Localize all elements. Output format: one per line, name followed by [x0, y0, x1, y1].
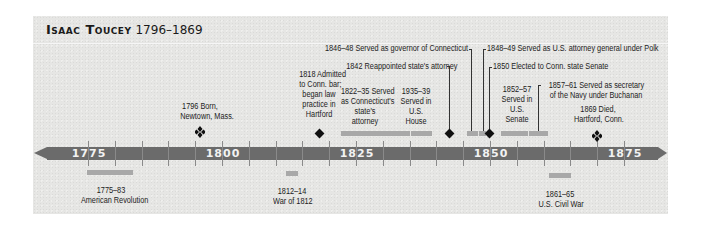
event-text: 1818 Admitted [299, 69, 339, 79]
event-text: 1775–83 [81, 185, 141, 195]
event-text: U.S. [500, 104, 534, 114]
event-text: state's [341, 106, 389, 116]
event-attorney-general-label: 1848–49 Served as U.S. attorney general … [487, 43, 664, 53]
axis-tick [276, 141, 277, 166]
event-text: 1869 Died, [574, 104, 622, 114]
leader-line [449, 66, 450, 130]
event-text: attorney [341, 116, 389, 126]
event-text: 1935–39 [401, 86, 432, 96]
axis-tick [115, 141, 116, 166]
axis-arrow-left-icon [34, 147, 47, 159]
event-house-label: 1935–39 Served in U.S. House [401, 86, 432, 126]
quad-diamond-icon [195, 126, 205, 138]
leader-line [471, 49, 472, 131]
event-text: began law [299, 89, 339, 99]
event-house-bar [411, 131, 432, 136]
event-text: to Conn. bar; [299, 79, 339, 89]
event-war-1812-bar [286, 171, 298, 176]
axis-label-1775: 1775 [72, 147, 107, 160]
event-died-label: 1869 Died, Hartford, Conn. [574, 104, 622, 124]
event-governor-bar [467, 131, 478, 136]
event-state-attorney-bar [341, 131, 410, 136]
event-text: American Revolution [81, 195, 141, 205]
event-text: Served in [500, 94, 534, 104]
event-text: of the Navy under Buchanan [549, 90, 644, 100]
axis-tick [302, 141, 303, 166]
axis-tick [436, 141, 437, 166]
axis-tick [544, 141, 545, 166]
axis-tick [249, 141, 250, 166]
event-war-1812-label: 1812–14 War of 1812 [273, 186, 311, 206]
event-text: Senate [500, 114, 534, 124]
event-text: 1796 Born, [180, 101, 220, 111]
page-title: Isaac Toucey1796–1869 [46, 22, 203, 37]
event-text: House [401, 116, 432, 126]
axis-tick [410, 141, 411, 166]
event-civil-war-label: 1861–65 U.S. Civil War [539, 189, 582, 209]
event-text: 1861–65 [539, 189, 582, 199]
event-civil-war-bar [549, 173, 571, 178]
event-navy-bar [529, 131, 548, 136]
event-text: 1822–35 Served [341, 86, 389, 96]
leader-line [538, 85, 539, 131]
event-text: Hartford, Conn. [574, 114, 622, 124]
event-bar-label: 1818 Admitted to Conn. bar; began law pr… [299, 69, 339, 119]
axis-tick [463, 141, 464, 166]
event-text: Served in [401, 96, 432, 106]
event-senate-label: 1852–57 Served in U.S. Senate [500, 84, 534, 124]
axis-tick [517, 141, 518, 166]
title-years: 1796–1869 [135, 23, 202, 37]
axis-tick [329, 141, 330, 166]
event-text: practice in [299, 99, 339, 109]
event-revolution-label: 1775–83 American Revolution [81, 185, 141, 205]
event-state-attorney-label: 1822–35 Served as Connecticut's state's … [341, 86, 389, 126]
axis-label-1825: 1825 [340, 147, 375, 160]
axis-tick [570, 141, 571, 166]
event-born-label: 1796 Born, Newtown, Mass. [180, 101, 220, 121]
axis-label-1850: 1850 [474, 147, 509, 160]
axis-label-1875: 1875 [608, 147, 643, 160]
axis-tick [195, 141, 196, 166]
axis-tick [597, 141, 598, 166]
event-reappointed-label: 1842 Reappointed state's attorney [346, 61, 446, 71]
event-text: Hartford [299, 109, 339, 119]
event-text: U.S. Civil War [539, 199, 582, 209]
event-senate-bar [501, 131, 528, 136]
event-text: War of 1812 [273, 196, 311, 206]
event-revolution-bar [87, 170, 133, 175]
event-state-senate-label: 1850 Elected to Conn. state Senate [493, 61, 613, 71]
leader-line [489, 67, 490, 130]
axis-tick [142, 141, 143, 166]
event-text: 1812–14 [273, 186, 311, 196]
quad-diamond-icon [592, 130, 602, 142]
event-navy-label: 1857–61 Served as secretary of the Navy … [549, 80, 644, 100]
leader-line [483, 49, 484, 131]
axis-tick [168, 141, 169, 166]
title-name: Isaac Toucey [46, 22, 131, 37]
event-governor-label: 1846–48 Served as governor of Connecticu… [324, 43, 468, 53]
event-text: U.S. [401, 106, 432, 116]
axis-arrow-right-icon [658, 147, 667, 159]
axis-tick [383, 141, 384, 166]
event-text: Newtown, Mass. [180, 111, 220, 121]
axis-label-1800: 1800 [206, 147, 241, 160]
event-text: 1857–61 Served as secretary [549, 80, 644, 90]
event-text: 1852–57 [500, 84, 534, 94]
event-text: as Connecticut's [341, 96, 389, 106]
